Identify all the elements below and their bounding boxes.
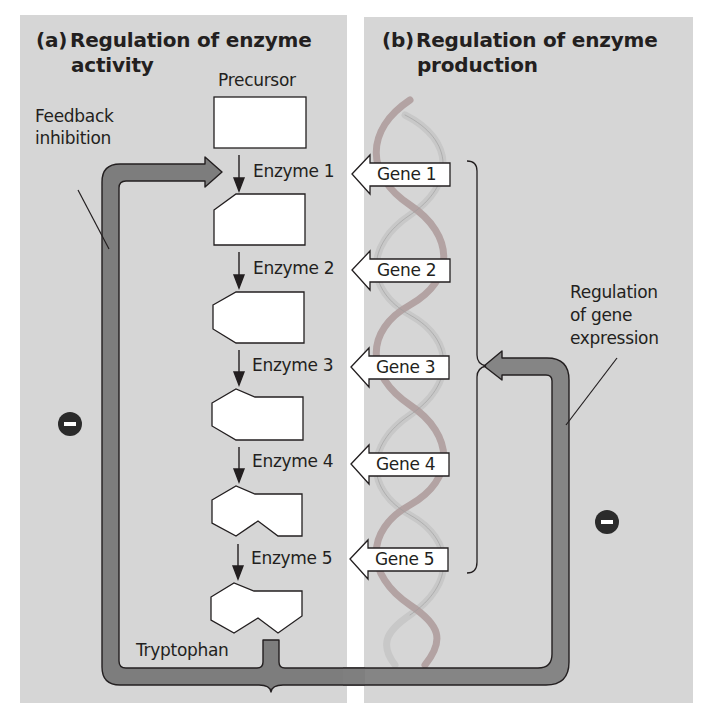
gene-group-bracket (467, 161, 486, 573)
panel-a-title-line1: Regulation of enzyme (70, 28, 312, 52)
enzyme-2-label: Enzyme 2 (253, 258, 334, 279)
panel-b-title-line1: Regulation of enzyme (416, 28, 658, 52)
tryptophan-shape (211, 583, 302, 633)
enzyme-1-label: Enzyme 1 (253, 161, 334, 182)
intermediate-shape-4 (212, 486, 302, 536)
intermediate-shape-1 (214, 194, 305, 245)
enzyme-3-label: Enzyme 3 (252, 355, 333, 376)
arrow-gap-fill (343, 667, 365, 686)
precursor-label: Precursor (218, 70, 296, 91)
panel-b-title-line2: production (382, 53, 658, 78)
enzyme-5-label: Enzyme 5 (251, 548, 332, 569)
gene-5-label: Gene 5 (375, 549, 434, 569)
panel-b-tag: (b) (382, 28, 416, 53)
tryptophan-label: Tryptophan (136, 640, 229, 661)
panel-a-tag: (a) (36, 28, 70, 53)
panel-b-title: (b)Regulation of enzyme production (382, 28, 658, 78)
intermediate-shape-2 (213, 292, 304, 343)
gene-4-label: Gene 4 (376, 454, 435, 474)
gene-regulation-arrow (346, 351, 569, 685)
regulation-label-line2: of gene (570, 305, 632, 326)
feedback-label-line1: Feedback (35, 106, 114, 127)
precursor-shape (214, 97, 306, 148)
enzyme-4-label: Enzyme 4 (252, 451, 333, 472)
intermediate-shape-3 (212, 389, 303, 440)
gene-3-label: Gene 3 (376, 357, 435, 377)
gene-2-label: Gene 2 (377, 260, 436, 280)
minus-icon (58, 412, 82, 436)
regulation-label-line1: Regulation (570, 282, 658, 303)
regulation-pointer-line (566, 358, 617, 425)
minus-icon (595, 510, 619, 534)
gene-1-label: Gene 1 (377, 164, 436, 184)
feedback-label-line2: inhibition (35, 128, 111, 149)
regulation-label-line3: expression (570, 328, 659, 349)
